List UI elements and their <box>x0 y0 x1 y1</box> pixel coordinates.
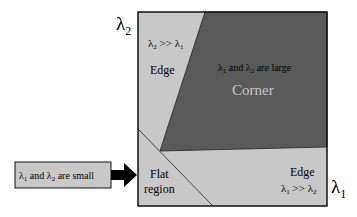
y-axis-label: λ2 <box>116 13 131 38</box>
edge-top-label: Edge <box>150 63 175 77</box>
flat-label-line1: Flat <box>150 167 169 181</box>
corner-label: Corner <box>232 82 274 98</box>
flat-label-line2: region <box>144 182 175 196</box>
edge-right-label: Edge <box>290 165 315 179</box>
arrow-right-icon <box>111 163 137 187</box>
x-axis-label: λ1 <box>331 176 346 201</box>
harris-eigenvalue-diagram: λ2 λ1 λ2 >> λ1 Edge λ1 and λ2 are large … <box>0 0 357 217</box>
